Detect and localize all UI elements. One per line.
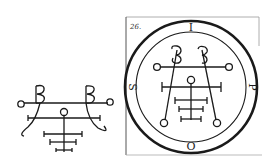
ring-letter-top: I — [189, 21, 193, 34]
right-seal: I P O S — [125, 21, 259, 153]
seal-glyph — [154, 46, 233, 127]
left-seal — [18, 86, 113, 153]
plate-number: 26. — [129, 23, 141, 31]
ring-letter-right: P — [246, 83, 259, 91]
ring-letter-bottom: O — [186, 140, 195, 153]
ring-letter-left: S — [126, 83, 139, 91]
seals-figure: 26. I P O S — [0, 0, 274, 168]
